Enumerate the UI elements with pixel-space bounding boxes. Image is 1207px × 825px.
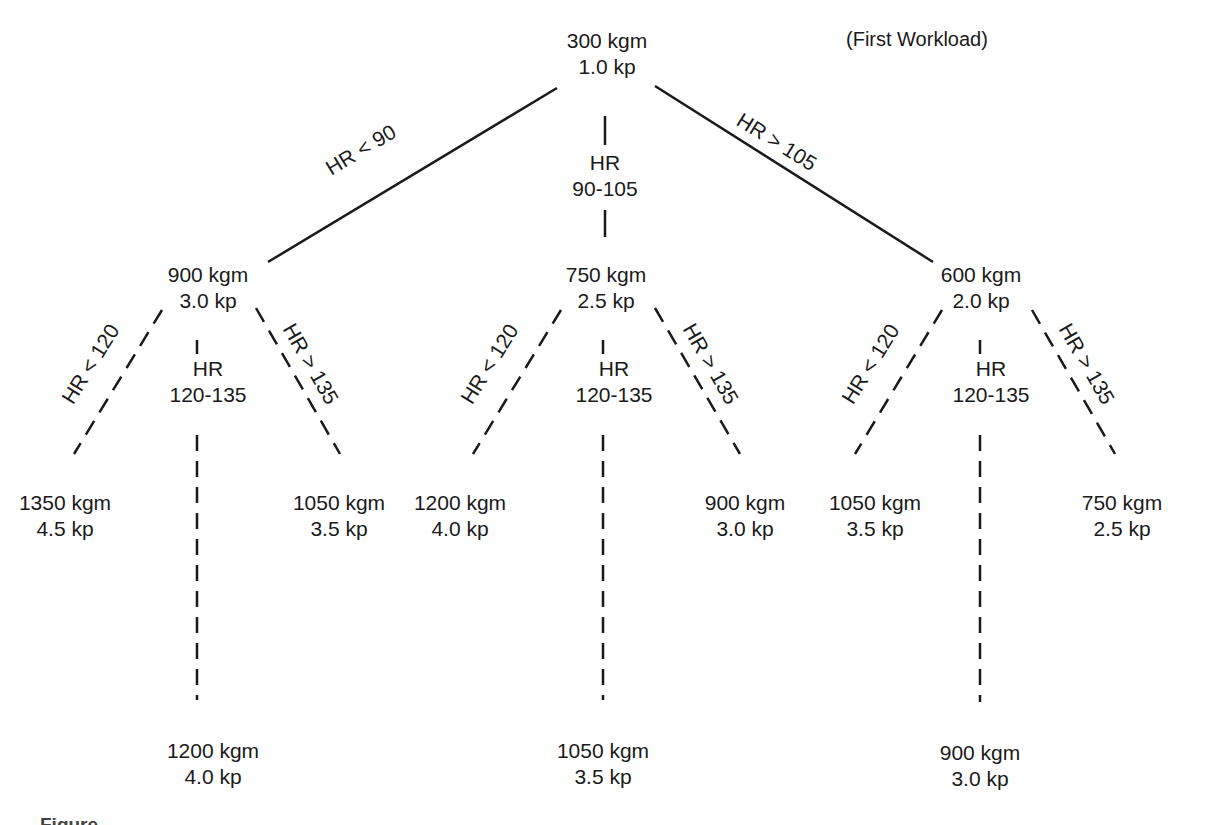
leaf-750-mid: 1050 kgm 3.5 kp xyxy=(557,738,649,790)
leaf-750-high: 900 kgm 3.0 kp xyxy=(705,490,786,542)
tree-connectors xyxy=(0,0,1207,825)
node-900-kgm: 900 kgm 3.0 kp xyxy=(168,262,249,314)
leaf-900-low: 1350 kgm 4.5 kp xyxy=(19,490,111,542)
leaf-900-mid: 1200 kgm 4.0 kp xyxy=(167,738,259,790)
edge-root-to-900 xyxy=(268,88,557,262)
figure-caption: Figure xyxy=(40,812,98,825)
edge-label-600-mid: HR 120-135 xyxy=(952,356,1029,408)
leaf-600-mid: 900 kgm 3.0 kp xyxy=(940,740,1021,792)
edge-label-hr-90-105: HR 90-105 xyxy=(572,150,637,202)
first-workload-note: (First Workload) xyxy=(846,28,988,51)
leaf-600-low: 1050 kgm 3.5 kp xyxy=(829,490,921,542)
node-600-kgm: 600 kgm 2.0 kp xyxy=(941,262,1022,314)
leaf-600-high: 750 kgm 2.5 kp xyxy=(1082,490,1163,542)
leaf-750-low: 1200 kgm 4.0 kp xyxy=(414,490,506,542)
leaf-900-high: 1050 kgm 3.5 kp xyxy=(293,490,385,542)
edge-label-750-mid: HR 120-135 xyxy=(575,356,652,408)
node-750-kgm: 750 kgm 2.5 kp xyxy=(566,262,647,314)
root-load: 1.0 kp xyxy=(567,54,648,80)
edge-label-900-mid: HR 120-135 xyxy=(169,356,246,408)
root-node: 300 kgm 1.0 kp xyxy=(567,28,648,80)
edge-root-to-600 xyxy=(655,86,933,262)
root-work: 300 kgm xyxy=(567,28,648,54)
